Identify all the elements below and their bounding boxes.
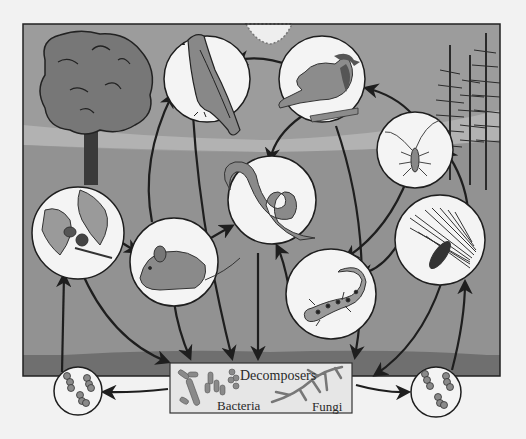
decomposers-label: Decomposers <box>240 368 316 383</box>
organism-beetle <box>377 112 453 188</box>
arrow-decomposers-to-nutrients-right <box>356 385 408 392</box>
arrow-decomposers-to-nutrients-left <box>104 389 168 392</box>
food-web-diagram: Decomposers Bacteria Fungi <box>0 0 526 439</box>
decomposers-box: Decomposers Bacteria Fungi <box>170 363 352 414</box>
organism-pine-needles <box>395 195 485 285</box>
fungi-label: Fungi <box>312 399 343 414</box>
organism-songbird <box>279 36 365 122</box>
organism-nutrients-left <box>54 367 102 415</box>
organism-nutrients-right <box>411 367 461 417</box>
organism-salamander <box>286 249 376 339</box>
bacteria-label: Bacteria <box>217 398 261 413</box>
organism-oak-leaves <box>32 187 124 279</box>
